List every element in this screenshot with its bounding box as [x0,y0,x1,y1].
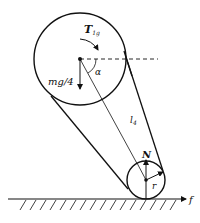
angle-label: α [95,67,101,77]
tangent-line-left [51,96,128,189]
normal-force-label: N [141,149,152,160]
friction-label: f [188,194,195,205]
length-label: l4 [130,115,137,126]
radius-label: r [152,181,157,191]
free-body-diagram: T1g α mg/4 l4 N r f [0,0,200,223]
weight-label: mg/4 [48,76,74,87]
ground-hatching [20,200,176,210]
diagram-canvas: T1g α mg/4 l4 N r f [0,0,200,223]
